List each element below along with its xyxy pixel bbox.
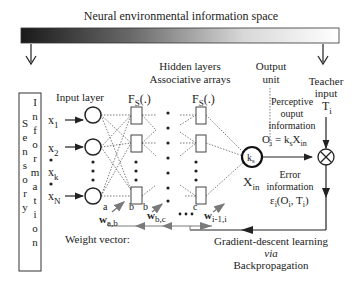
backpropagation-label: Backpropagation (233, 259, 309, 271)
gray-arrow-right (200, 222, 212, 230)
svg-text:ouput: ouput (281, 108, 304, 119)
w-ab-label: wa,b (99, 213, 118, 228)
svg-text:y: y (22, 201, 28, 213)
svg-text:o: o (32, 138, 38, 150)
svg-text:n: n (32, 110, 38, 122)
hidden-layers-label: Hidden layers (159, 60, 220, 72)
weight-vector-label: Weight vector: (65, 233, 130, 245)
hidden-layer-1-ellipsis (134, 160, 137, 181)
svg-text:e: e (23, 131, 28, 143)
svg-text:s: s (23, 159, 27, 171)
input-layer-ellipsis (91, 160, 94, 181)
svg-text:r: r (33, 152, 37, 164)
xin-label: Xin (243, 174, 260, 192)
svg-text:a: a (33, 180, 38, 192)
input-neurons (85, 107, 101, 204)
svg-text:n: n (32, 236, 38, 248)
ellipsis-dot (49, 182, 52, 185)
perceptive-equation: Oi = ksXin (262, 133, 307, 148)
neural-network-diagram: Neural environmental information space I… (0, 0, 364, 293)
error-equation: εi(Oi, Ti) (270, 194, 309, 209)
svg-text:b: b (129, 201, 134, 212)
w-bc-label: wb,c (147, 209, 166, 224)
teacher-T-label: Ti (322, 99, 332, 116)
svg-text:x1: x1 (48, 113, 59, 130)
fs-label-2: FS(.) (192, 92, 215, 108)
hidden-layer-2-ellipsis (194, 160, 197, 181)
svg-text:i: i (33, 208, 36, 220)
svg-text:xk: xk (48, 165, 59, 182)
teacher-label: Teacher (309, 75, 344, 87)
svg-text:S: S (22, 117, 28, 129)
svg-text:a: a (103, 201, 108, 212)
perceptive-output-info: Perceptive ouput information (268, 96, 315, 131)
svg-text:information: information (266, 181, 313, 192)
svg-text:o: o (32, 222, 38, 234)
svg-text:o: o (22, 173, 28, 185)
backprop-arrow-head (241, 226, 253, 234)
left-down-arrow (26, 44, 36, 64)
svg-text:xN: xN (48, 189, 61, 206)
svg-text:Error: Error (279, 169, 301, 180)
svg-text:r: r (23, 187, 27, 199)
right-down-arrow (318, 44, 328, 64)
svg-text:m: m (31, 166, 40, 178)
hidden-layer-2 (196, 107, 206, 204)
input-layer-label: Input layer (56, 91, 104, 103)
w-i-label: wi-1,i (204, 209, 227, 224)
input-label: input (315, 87, 338, 99)
error-info: Error information (266, 169, 313, 192)
fs-label-1: FS(.) (128, 92, 151, 108)
error-arrow-head (322, 188, 330, 198)
svg-text:c: c (193, 201, 198, 212)
gradient-descent-label: Gradient-descent learning (214, 235, 328, 247)
svg-text:n: n (22, 145, 28, 157)
input-arrows (65, 120, 83, 196)
svg-text:information: information (268, 120, 315, 131)
svg-text:t: t (33, 194, 36, 206)
gray-arrow-left-1 (135, 222, 145, 230)
environment-gradient-bar (21, 28, 339, 43)
diagram-title: Neural environmental information space (84, 9, 278, 23)
unit-label: unit (262, 73, 279, 85)
comparator-icon (318, 149, 334, 165)
weight-ellipsis (179, 213, 194, 216)
via-label: via (264, 247, 278, 259)
svg-text:Perceptive: Perceptive (271, 96, 314, 107)
ellipsis-dot (49, 158, 52, 161)
middle-ellipsis (166, 111, 169, 202)
svg-text:I: I (33, 96, 37, 108)
output-label: Output (256, 60, 287, 72)
hidden-layer-1 (131, 107, 142, 204)
svg-text:x2: x2 (48, 141, 59, 158)
associative-arrays-label: Associative arrays (150, 73, 231, 85)
svg-text:f: f (33, 124, 37, 136)
